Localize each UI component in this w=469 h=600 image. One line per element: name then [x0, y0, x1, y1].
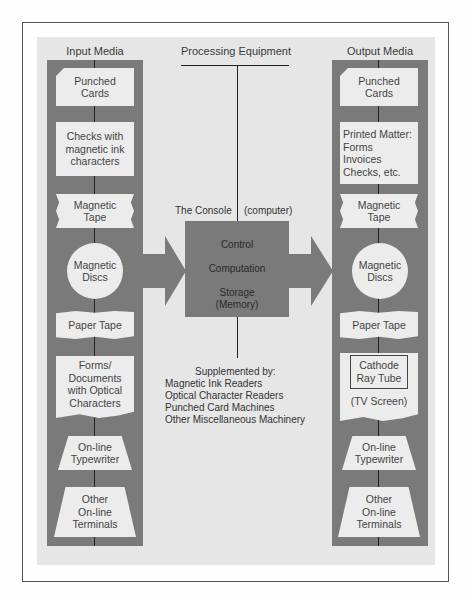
output-magnetic-tape: Magnetic Tape	[340, 194, 418, 228]
output-printed-matter: Printed Matter: Forms Invoices Checks, e…	[340, 122, 418, 184]
supplemented-title: Supplemented by:	[195, 366, 276, 378]
input-forms-documents: Forms/ Documents with Optical Characters	[56, 356, 134, 418]
processing-equipment-heading: Processing Equipment	[179, 45, 293, 57]
output-other-online-terminals: Other On-line Terminals	[338, 487, 420, 537]
output-paper-tape: Paper Tape	[340, 311, 418, 339]
supplemented-item: Other Miscellaneous Machinery	[165, 414, 305, 426]
console-computation: Computation	[185, 263, 289, 274]
tv-screen-label: (TV Screen)	[340, 395, 418, 408]
input-media-heading: Input Media	[47, 45, 143, 57]
input-paper-tape: Paper Tape	[56, 311, 134, 339]
output-punched-cards: Punched Cards	[340, 68, 418, 106]
supplemented-item: Punched Card Machines	[165, 402, 275, 414]
input-online-typewriter: On-line Typewriter	[58, 436, 132, 470]
input-magnetic-tape: Magnetic Tape	[56, 194, 134, 228]
input-magnetic-discs: Magnetic Discs	[67, 243, 123, 299]
console-subtitle: (computer)	[244, 205, 292, 217]
crt-label: Cathode Ray Tube	[340, 359, 418, 384]
console-title: The Console	[175, 205, 232, 217]
supplemented-item: Optical Character Readers	[165, 390, 283, 402]
console-control: Control	[185, 239, 289, 250]
input-other-online-terminals: Other On-line Terminals	[54, 487, 136, 537]
console-storage: Storage (Memory)	[185, 287, 289, 311]
input-to-console-arrow	[143, 236, 186, 306]
output-online-typewriter: On-line Typewriter	[342, 436, 416, 470]
processing-connector-top	[237, 66, 238, 221]
input-punched-cards: Punched Cards	[56, 68, 134, 106]
output-magnetic-discs: Magnetic Discs	[352, 243, 408, 299]
processing-connector-bottom	[237, 317, 238, 358]
output-media-heading: Output Media	[332, 45, 428, 57]
input-checks-magnetic-ink: Checks with magnetic ink characters	[56, 122, 134, 176]
output-crt-display: Cathode Ray Tube (TV Screen)	[340, 353, 418, 421]
supplemented-item: Magnetic Ink Readers	[165, 378, 262, 390]
console-to-output-arrow	[289, 236, 333, 306]
processing-heading-underline	[181, 65, 289, 66]
console-box: Control Computation Storage (Memory)	[185, 221, 289, 317]
